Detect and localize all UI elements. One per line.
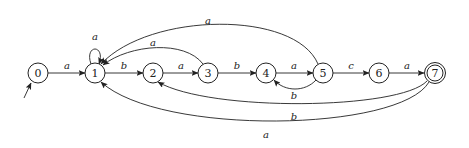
- edge-label: b: [291, 90, 297, 101]
- edge-label: a: [291, 60, 297, 71]
- state-label: 3: [205, 67, 212, 80]
- state-3: 3: [198, 63, 218, 83]
- state-label: 4: [263, 67, 270, 80]
- state-label: 2: [150, 67, 157, 80]
- state-5: 5: [313, 63, 333, 83]
- state-4: 4: [256, 63, 276, 83]
- edge-label: a: [150, 37, 156, 48]
- edge-2-3: a: [163, 60, 198, 73]
- edge-5-4: b: [274, 80, 316, 101]
- edge-1-2: b: [105, 60, 143, 73]
- state-1: 1: [85, 63, 105, 83]
- initial-arrow: [24, 83, 31, 98]
- edge-5-6: c: [333, 60, 369, 73]
- automaton-diagram: a a b a a b a b a c: [0, 0, 469, 148]
- edge-3-4: b: [218, 60, 256, 73]
- state-6: 6: [369, 63, 389, 83]
- state-7-accepting: 7: [425, 63, 446, 84]
- edge-label: a: [205, 15, 211, 26]
- edge-1-1-loop: a: [90, 31, 101, 64]
- edge-4-5: a: [276, 60, 313, 73]
- edge-label: a: [64, 60, 70, 71]
- state-label: 1: [92, 67, 99, 80]
- edge-label: a: [404, 60, 410, 71]
- edge-0-1: a: [48, 60, 85, 73]
- edge-6-7: a: [389, 60, 424, 73]
- state-label: 7: [432, 67, 439, 80]
- edge-label: a: [178, 60, 184, 71]
- state-label: 0: [35, 67, 42, 80]
- edge-3-1: a: [103, 37, 203, 65]
- edge-label: b: [121, 60, 127, 71]
- edge-label: c: [348, 60, 354, 71]
- state-label: 6: [376, 67, 383, 80]
- state-0: 0: [28, 63, 48, 83]
- edge-7-1: a: [101, 82, 429, 140]
- edge-label: b: [234, 60, 240, 71]
- edge-label: a: [92, 31, 98, 42]
- edge-5-1: a: [101, 15, 318, 64]
- edge-label: a: [263, 129, 269, 140]
- state-label: 5: [320, 67, 327, 80]
- state-2: 2: [143, 63, 163, 83]
